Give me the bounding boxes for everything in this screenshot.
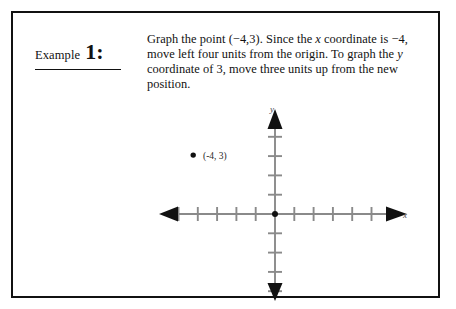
example-number: 1: — [80, 39, 103, 64]
x-axis-left-arrowhead — [159, 207, 178, 222]
figure-frame: Example1: Graph the point (−4,3). Since … — [11, 11, 440, 298]
paragraph-line-3: coordinate of 3, move three units up fro… — [147, 62, 398, 76]
coordinate-plane-graph: y x (-4, 3) — [153, 103, 413, 303]
y-axis-label: y — [269, 104, 274, 114]
example-label-block: Example1: — [35, 39, 135, 75]
paragraph-line-1-part-a: Graph the point (−4,3). Since the — [147, 32, 315, 46]
origin-point — [272, 211, 278, 217]
example-underline-rule — [35, 69, 121, 70]
instruction-paragraph: Graph the point (−4,3). Since the x coor… — [147, 32, 409, 92]
plotted-point — [191, 152, 196, 157]
paragraph-line-2: move left four units from the origin. To… — [147, 47, 397, 61]
x-axis-label: x — [402, 210, 407, 220]
example-heading: Example1: — [35, 39, 103, 65]
page-canvas: Example1: Graph the point (−4,3). Since … — [0, 0, 456, 309]
variable-y-inline: y — [397, 47, 403, 61]
example-word: Example — [35, 48, 80, 62]
plotted-point-label: (-4, 3) — [203, 151, 227, 162]
paragraph-line-1-part-b: coordinate is −4, — [321, 32, 408, 46]
paragraph-line-4: position. — [147, 77, 190, 91]
